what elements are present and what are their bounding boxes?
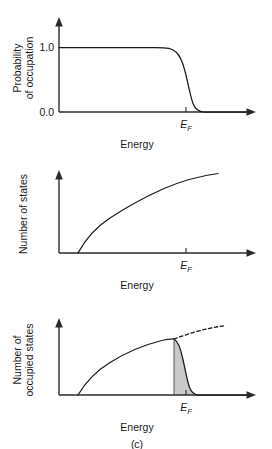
y-axis-label-line2-c: occupied states <box>23 324 35 397</box>
panel-b: (a) EF Number of states Energy <box>0 152 272 300</box>
panel-b-plot: (a) EF Number of states Energy <box>0 152 272 300</box>
curve-fermi-dirac <box>59 48 246 113</box>
fermi-energy-label-c: EF <box>180 401 192 416</box>
x-axis-label-a: Energy <box>120 138 154 150</box>
curve-occupied-states <box>78 339 246 395</box>
y-axis-label-line1-c: Number of <box>11 335 23 384</box>
fermi-energy-label-b: EF <box>180 259 192 274</box>
y-axis-arrow-b <box>55 170 63 180</box>
x-axis-label-c: Energy <box>120 421 154 433</box>
ytick-label-top-a: 1.0 <box>39 41 54 53</box>
y-axis-label-b: Number of states <box>17 174 29 254</box>
panel-a: 1.0 0.0 EF Probability of occupation Ene… <box>0 0 272 152</box>
curve-unoccupied-dashed <box>174 326 224 339</box>
y-axis-label-line2-a: of occupation <box>23 37 35 100</box>
y-axis-arrow-a <box>55 17 63 27</box>
ytick-label-bottom-a: 0.0 <box>39 106 54 118</box>
panel-c: (b) EF Number of occupied states Energy <box>0 300 272 449</box>
y-axis-arrow-c <box>55 318 63 328</box>
x-axis-arrow-b <box>247 249 257 257</box>
caption-c: (c) <box>131 438 143 449</box>
panel-a-plot: 1.0 0.0 EF Probability of occupation Ene… <box>0 0 272 152</box>
curve-density-of-states <box>78 174 218 254</box>
figure-fermi-distribution: 1.0 0.0 EF Probability of occupation Ene… <box>0 0 272 449</box>
x-axis-arrow-c <box>247 391 257 399</box>
x-axis-arrow-a <box>247 108 257 116</box>
fermi-energy-label-a: EF <box>180 118 192 133</box>
x-axis-label-b: Energy <box>120 279 154 291</box>
y-axis-label-line1-a: Probability <box>11 43 23 93</box>
panel-c-plot: (b) EF Number of occupied states Energy <box>0 300 272 449</box>
